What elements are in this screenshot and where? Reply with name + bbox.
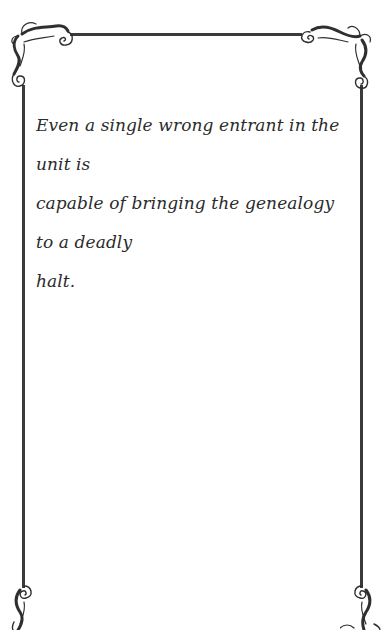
quote-card: Even a single wrong entrant in the unit … (0, 0, 386, 630)
flourish-corner-icon (8, 582, 38, 630)
quote-line-1: Even a single wrong entrant in the unit … (36, 115, 339, 174)
flourish-corner-icon (4, 14, 76, 90)
flourish-corner-icon (340, 582, 386, 630)
flourish-corner-icon (296, 14, 378, 90)
quote-text: Even a single wrong entrant in the unit … (36, 106, 354, 301)
frame-top-border (70, 33, 302, 36)
quote-line-2: capable of bringing the genealogy to a d… (36, 193, 334, 252)
quote-line-3: halt. (36, 271, 75, 291)
frame-left-border (22, 85, 25, 588)
frame-right-border (360, 85, 363, 588)
